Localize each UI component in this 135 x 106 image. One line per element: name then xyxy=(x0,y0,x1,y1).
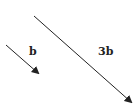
vector-b-label: b xyxy=(29,46,37,57)
vector-3b-arrow xyxy=(34,16,131,102)
vector-3b-label: 3b xyxy=(98,46,113,57)
vector-diagram: b 3b xyxy=(0,0,135,106)
vector-arrows xyxy=(0,0,135,106)
